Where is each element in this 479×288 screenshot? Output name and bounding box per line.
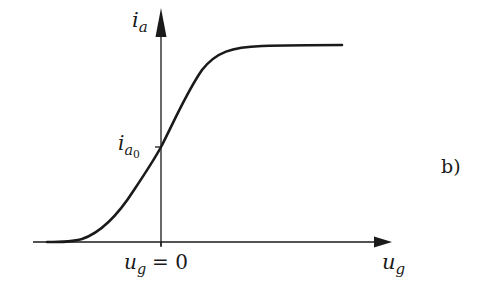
x-axis-label: ug bbox=[382, 250, 405, 274]
panel-label: b) bbox=[441, 155, 461, 177]
y-tick-label: ia0 bbox=[118, 131, 140, 155]
y-axis-label: ia bbox=[132, 8, 148, 32]
sigmoid-curve bbox=[47, 45, 342, 242]
characteristic-diagram bbox=[0, 0, 479, 288]
x-tick-label: ug= 0 bbox=[124, 250, 188, 274]
x-axis-arrow-icon bbox=[374, 237, 392, 248]
y-axis-arrow-icon bbox=[156, 8, 167, 37]
